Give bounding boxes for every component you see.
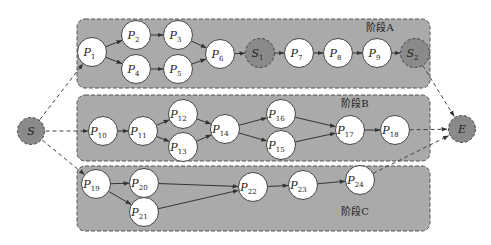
stage-label: 阶段A: [366, 21, 394, 33]
node-p11: P11: [129, 117, 158, 146]
node-s: S: [18, 118, 45, 145]
node-p13: P13: [169, 133, 198, 162]
node-s1: S1: [246, 39, 275, 68]
node-p1: P1: [78, 38, 107, 67]
node-p2: P2: [122, 21, 151, 50]
node-label: S: [27, 125, 35, 138]
edge-s-to-p1: [40, 64, 83, 120]
node-p17: P17: [336, 116, 365, 145]
node-e: E: [449, 116, 476, 143]
node-p9: P9: [363, 39, 392, 68]
node-p4: P4: [122, 55, 151, 84]
node-p18: P18: [381, 116, 410, 145]
node-p15: P15: [267, 131, 296, 160]
node-p5: P5: [164, 55, 193, 84]
node-p22: P22: [239, 173, 268, 202]
node-p16: P16: [267, 100, 296, 129]
process-flow-diagram: 阶段A阶段B阶段C SEP1P2P3P4P5P6S1P7P8P9S2P10P11…: [0, 0, 491, 245]
stage-label: 阶段C: [341, 205, 369, 217]
stage-label: 阶段B: [341, 97, 368, 109]
node-p12: P12: [169, 100, 198, 129]
node-p24: P24: [346, 166, 375, 195]
node-p8: P8: [324, 39, 353, 68]
node-p7: P7: [285, 39, 314, 68]
node-p23: P23: [289, 171, 318, 200]
node-p10: P10: [89, 117, 118, 146]
node-s2: S2: [401, 39, 430, 68]
node-p3: P3: [164, 21, 193, 50]
node-p19: P19: [82, 170, 111, 199]
node-label: E: [457, 123, 466, 136]
node-p21: P21: [130, 198, 159, 227]
node-p6: P6: [206, 40, 235, 69]
node-p20: P20: [130, 169, 159, 198]
node-p14: P14: [211, 115, 240, 144]
